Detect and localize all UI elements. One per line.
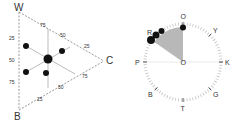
dial-label-g: G xyxy=(213,91,218,98)
ternary-diagram: W B C 25 50 75 75 50 25 25 50 75 xyxy=(9,2,113,122)
dial-label-o: O xyxy=(181,13,187,20)
ternary-point[interactable] xyxy=(59,48,65,54)
dial-label-p: P xyxy=(135,59,140,66)
dial-center-label: O xyxy=(181,59,187,66)
ternary-point[interactable] xyxy=(23,43,29,49)
vertex-label-b: B xyxy=(14,111,21,122)
dial-label-b: B xyxy=(148,91,153,98)
dial-point[interactable] xyxy=(159,28,165,34)
top-edge-tick-75: 75 xyxy=(40,22,46,28)
figure-canvas: W B C 25 50 75 75 50 25 25 50 75 xyxy=(0,0,245,130)
bottom-edge-tick-25: 25 xyxy=(37,96,43,102)
dial-sector xyxy=(154,27,183,62)
dial-diagram: O Y K G T B P R O xyxy=(135,13,230,112)
dial-point[interactable] xyxy=(180,25,186,31)
left-tick-25: 25 xyxy=(9,35,15,41)
bottom-edge-tick-75: 75 xyxy=(82,73,88,79)
dial-label-t: T xyxy=(181,105,186,112)
dial-label-r: R xyxy=(147,29,152,36)
vertex-label-c: C xyxy=(106,55,113,66)
vertex-label-w: W xyxy=(14,2,24,13)
dial-label-y: Y xyxy=(213,27,218,34)
dial-point[interactable] xyxy=(147,36,155,44)
dial-label-k: K xyxy=(225,59,230,66)
top-edge-tick-25: 25 xyxy=(84,43,90,49)
ternary-point-center[interactable] xyxy=(44,55,53,64)
bottom-edge-tick-50: 50 xyxy=(58,84,64,90)
top-edge-tick-50: 50 xyxy=(60,32,66,38)
left-tick-50: 50 xyxy=(9,57,15,63)
ternary-point[interactable] xyxy=(43,70,49,76)
ternary-point[interactable] xyxy=(23,69,29,75)
left-tick-75: 75 xyxy=(9,79,15,85)
